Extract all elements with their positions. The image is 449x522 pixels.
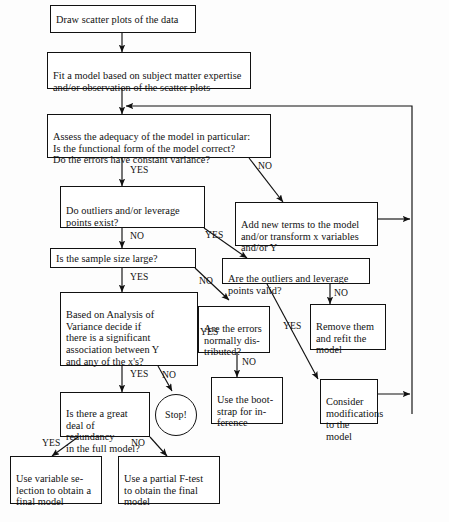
node-draw-scatter[interactable]: Draw scatter plots of the data (50, 5, 196, 33)
node-add-terms[interactable]: Add new terms to the model and/or transf… (235, 202, 378, 246)
edge-label-assess-yes: YES (130, 165, 148, 175)
node-assess-label: Assess the adequacy of the model in part… (53, 131, 250, 166)
node-draw-scatter-label: Draw scatter plots of the data (56, 14, 178, 26)
edge-label-valid-yes: YES (283, 321, 301, 331)
edge-label-valid-no: NO (334, 288, 348, 298)
node-fit-model[interactable]: Fit a model based on subject matter expe… (47, 52, 251, 89)
edge-label-normal-no: NO (242, 357, 256, 367)
edge-label-outliers-no: NO (130, 231, 144, 241)
flowchart-canvas: Draw scatter plots of the data Fit a mod… (0, 0, 449, 522)
node-anova-label: Based on Analysis of Variance decide if … (66, 309, 159, 367)
node-variable-selection[interactable]: Use variable se- lection to obtain a fin… (10, 456, 102, 504)
node-outliers-valid-label: Are the outliers and leverage points val… (228, 273, 348, 296)
edge-label-normal-yes: YES (200, 327, 218, 337)
edge-label-sample-yes: YES (130, 272, 148, 282)
node-outliers-exist[interactable]: Do outliers and/or leverage points exist… (60, 186, 205, 228)
node-outliers-exist-label: Do outliers and/or leverage points exist… (66, 205, 180, 228)
node-anova[interactable]: Based on Analysis of Variance decide if … (60, 292, 198, 366)
edge-label-redundancy-yes: YES (42, 438, 60, 448)
node-redundancy-label: Is there a great deal of redundancy in t… (66, 408, 140, 454)
edge-label-anova-no: NO (162, 370, 176, 380)
edge-label-anova-yes: YES (130, 369, 148, 379)
node-remove-refit-label: Remove them and refit the model (316, 321, 374, 356)
node-assess[interactable]: Assess the adequacy of the model in part… (47, 114, 271, 158)
node-remove-refit[interactable]: Remove them and refit the model (310, 304, 386, 350)
node-bootstrap[interactable]: Use the boot- strap for in- ference (211, 377, 283, 424)
node-sample-size[interactable]: Is the sample size large? (50, 248, 196, 268)
node-stop[interactable]: Stop! (155, 394, 197, 436)
node-consider-mods-label: Consider modifications to the model (326, 396, 383, 442)
edge-label-redundancy-no: NO (131, 438, 145, 448)
edge-label-sample-no: NO (199, 276, 213, 286)
node-partial-f-test-label: Use a partial F-test to obtain the final… (124, 473, 203, 508)
node-sample-size-label: Is the sample size large? (56, 253, 158, 265)
node-variable-selection-label: Use variable se- lection to obtain a fin… (16, 473, 91, 508)
node-add-terms-label: Add new terms to the model and/or transf… (241, 219, 359, 254)
node-partial-f-test[interactable]: Use a partial F-test to obtain the final… (118, 456, 220, 504)
node-consider-mods[interactable]: Consider modifications to the model (320, 379, 378, 424)
edge-label-outliers-yes: YES (205, 230, 223, 240)
node-bootstrap-label: Use the boot- strap for in- ference (217, 394, 273, 429)
node-stop-label: Stop! (165, 409, 187, 421)
edge-redundancy-no (150, 437, 167, 456)
edge-label-assess-no: NO (258, 161, 272, 171)
node-redundancy[interactable]: Is there a great deal of redundancy in t… (60, 392, 150, 437)
node-fit-model-label: Fit a model based on subject matter expe… (53, 70, 241, 93)
node-outliers-valid[interactable]: Are the outliers and leverage points val… (222, 258, 370, 284)
